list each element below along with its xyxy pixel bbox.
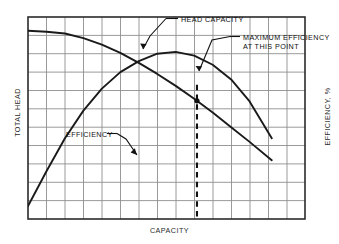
maximum-efficiency-annotation-label: MAXIMUM EFFICIENCYAT THIS POINT bbox=[243, 33, 330, 51]
efficiency-axis-label: EFFICIENCY, % bbox=[323, 77, 332, 157]
maximum-efficiency-line-2: AT THIS POINT bbox=[243, 42, 299, 51]
maximum-efficiency-line-1: MAXIMUM EFFICIENCY bbox=[243, 33, 330, 42]
efficiency-annotation-label: EFFICIENCY bbox=[66, 130, 113, 139]
best-efficiency-point-marker bbox=[194, 98, 199, 103]
pump-curve-figure: TOTAL HEAD EFFICIENCY, % CAPACITY HEAD C… bbox=[0, 0, 339, 244]
head-capacity-annotation-label: HEAD CAPACITY bbox=[181, 15, 244, 24]
total-head-axis-label: TOTAL HEAD bbox=[13, 78, 22, 148]
capacity-axis-label: CAPACITY bbox=[0, 226, 339, 235]
